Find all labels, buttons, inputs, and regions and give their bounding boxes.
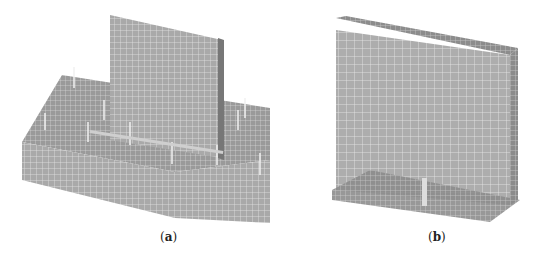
panel-b-model bbox=[330, 0, 535, 225]
panel-a-model bbox=[0, 0, 270, 225]
caption-b: (b) bbox=[428, 230, 446, 244]
wall-side bbox=[510, 48, 518, 205]
caption-a: (a) bbox=[160, 230, 177, 244]
